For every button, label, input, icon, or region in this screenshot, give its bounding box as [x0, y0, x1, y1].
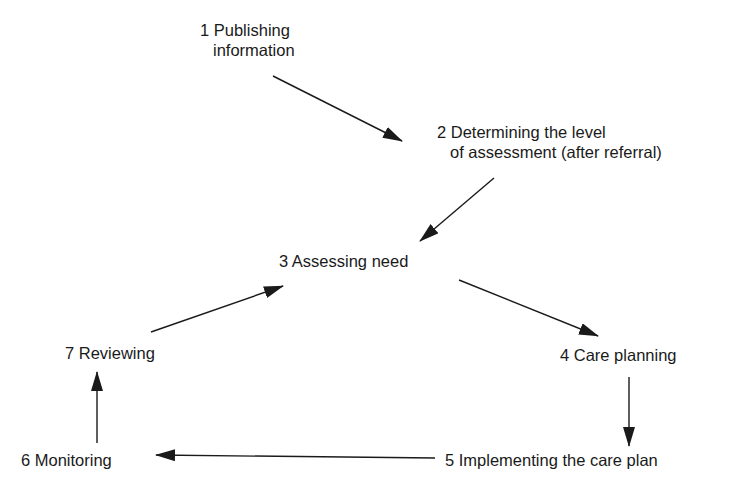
node-publishing-information: 1 Publishing information: [200, 20, 295, 60]
node-label-line: 6 Monitoring: [21, 450, 112, 470]
node-monitoring: 6 Monitoring: [21, 450, 112, 470]
node-assessing-need: 3 Assessing need: [279, 251, 408, 271]
node-determining-level-of-assessment: 2 Determining the level of assessment (a…: [437, 122, 662, 162]
node-reviewing: 7 Reviewing: [65, 343, 155, 363]
arrow-3-to-4: [459, 280, 598, 336]
node-label-line: 7 Reviewing: [65, 343, 155, 363]
arrow-5-to-6: [156, 455, 435, 458]
node-label-line: 3 Assessing need: [279, 251, 408, 271]
arrow-7-to-3: [151, 286, 283, 332]
arrow-2-to-3: [420, 178, 494, 241]
node-label-line: information: [200, 40, 295, 60]
arrows-layer: [0, 0, 751, 495]
node-label-line: of assessment (after referral): [437, 142, 662, 162]
node-label-line: 2 Determining the level: [437, 122, 662, 142]
node-implementing-care-plan: 5 Implementing the care plan: [445, 450, 658, 470]
node-label-line: 4 Care planning: [560, 345, 677, 365]
node-label-line: 1 Publishing: [200, 20, 295, 40]
arrow-1-to-2: [273, 76, 402, 141]
node-label-line: 5 Implementing the care plan: [445, 450, 658, 470]
node-care-planning: 4 Care planning: [560, 345, 677, 365]
